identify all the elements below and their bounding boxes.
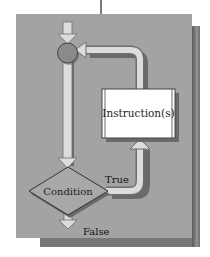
junction-node	[58, 43, 78, 63]
instructions-label: Instruction(s)	[102, 107, 174, 119]
instructions-node: Instruction(s)	[102, 89, 175, 138]
false-label: False	[83, 226, 110, 237]
flowchart-diagram: Instruction(s) Condition True False	[0, 0, 210, 257]
true-label: True	[105, 174, 129, 185]
condition-label: Condition	[43, 186, 93, 197]
